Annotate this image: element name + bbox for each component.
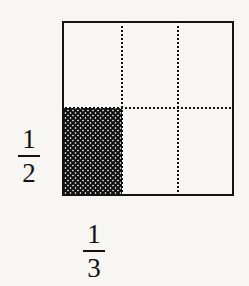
one-half-denominator: 2 <box>20 159 38 187</box>
shaded-cross-hatched-cell <box>63 108 122 195</box>
one-third-fraction-bar <box>83 250 105 252</box>
one-third-denominator: 3 <box>85 254 103 282</box>
one-half-numerator: 1 <box>20 126 38 154</box>
label-one-third: 1 3 <box>83 221 105 282</box>
fraction-area-model-figure: 1 2 1 3 <box>0 0 249 286</box>
one-third-numerator: 1 <box>85 221 103 249</box>
one-half-fraction-bar <box>18 155 40 157</box>
label-one-half: 1 2 <box>18 126 40 187</box>
